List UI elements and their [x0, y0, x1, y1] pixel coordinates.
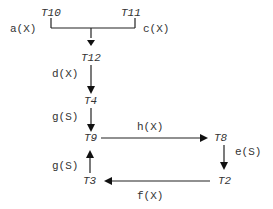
- edge-label-d: d(X): [52, 68, 78, 80]
- edge-label-c: c(X): [143, 23, 169, 35]
- arrowhead-icon: [87, 124, 95, 132]
- node-t9: T9: [84, 132, 97, 144]
- arrowhead-icon: [104, 177, 112, 185]
- edge-label-a: a(X): [10, 23, 36, 35]
- edge-label-e: e(S): [235, 146, 261, 158]
- edge-label-h: h(X): [137, 121, 163, 133]
- diagram-edges: [0, 0, 273, 209]
- arrowhead-icon: [86, 150, 94, 158]
- edge-label-g2: g(S): [52, 160, 78, 172]
- node-t10: T10: [41, 7, 61, 19]
- arrowhead-icon: [87, 86, 95, 94]
- node-t2: T2: [218, 175, 231, 187]
- node-t11: T11: [121, 7, 141, 19]
- arrowhead-icon: [220, 162, 228, 170]
- diagram-canvas: T10 T11 a(X) c(X) T12 d(X) T4 g(S) T9 h(…: [0, 0, 273, 209]
- node-t12: T12: [81, 52, 101, 64]
- edge-label-g1: g(S): [52, 111, 78, 123]
- node-t4: T4: [84, 95, 97, 107]
- edge-label-f: f(X): [137, 190, 163, 202]
- node-t8: T8: [214, 132, 227, 144]
- arrowhead-icon: [200, 134, 208, 142]
- node-t3: T3: [83, 175, 96, 187]
- arrowhead-icon: [87, 40, 95, 46]
